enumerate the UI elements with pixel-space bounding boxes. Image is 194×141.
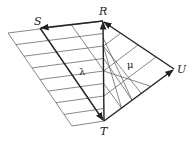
point-label-T: T <box>100 125 109 138</box>
vector-TR <box>103 22 104 121</box>
region-label-lambda: λ <box>79 66 86 77</box>
region-label-mu: μ <box>127 59 134 70</box>
point-label-R: R <box>98 5 107 18</box>
vector-TU <box>104 70 173 121</box>
point-label-U: U <box>177 63 187 76</box>
point-label-S: S <box>34 15 42 28</box>
vectors <box>40 21 174 121</box>
vector-RS <box>41 21 103 28</box>
vector-diagram: R S T U λ μ <box>0 0 194 141</box>
vector-ST <box>40 28 103 120</box>
left-grid <box>8 21 104 126</box>
right-grid <box>103 34 156 109</box>
